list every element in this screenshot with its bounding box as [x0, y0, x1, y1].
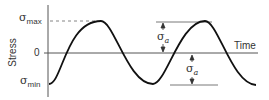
x-axis-label: Time — [234, 41, 256, 51]
zero-label: 0 — [34, 48, 40, 58]
upper-sigma-a-label: σa — [157, 31, 169, 42]
sigma-min-label: σmin — [20, 75, 40, 86]
y-axis-label: Stress — [7, 35, 18, 71]
sigma-max-label: σmax — [19, 12, 42, 23]
lower-sigma-a-label: σa — [186, 63, 198, 74]
